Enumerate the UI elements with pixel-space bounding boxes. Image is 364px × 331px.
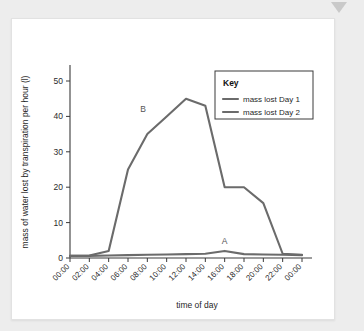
y-tick-label: 20 — [54, 182, 64, 192]
y-tick-label: 10 — [54, 218, 64, 228]
x-tick-label: 02:00 — [70, 262, 91, 283]
legend-label-day-1: mass lost Day 1 — [243, 95, 300, 104]
x-tick-label: 06:00 — [109, 262, 130, 283]
annotation-label-b: B — [140, 104, 146, 114]
y-axis-title: mass of water lost by transpiration per … — [20, 75, 30, 248]
x-tick-label: 04:00 — [90, 262, 111, 283]
chart-svg: 01020304050 00:0002:0004:0006:0008:0010:… — [12, 19, 334, 319]
page-background: 01020304050 00:0002:0004:0006:0008:0010:… — [0, 0, 364, 331]
legend-label-day-2: mass lost Day 2 — [243, 108, 300, 117]
legend-title: Key — [223, 78, 239, 88]
x-tick-label: 10:00 — [148, 262, 169, 283]
annotation-label-a: A — [222, 236, 228, 246]
transpiration-line-chart: 01020304050 00:0002:0004:0006:0008:0010:… — [12, 19, 334, 319]
x-tick-label: 14:00 — [186, 262, 207, 283]
x-tick-label: 22:00 — [264, 262, 285, 283]
x-tick-label: 08:00 — [128, 262, 149, 283]
x-axis-tick-labels: 00:0002:0004:0006:0008:0010:0012:0014:00… — [51, 262, 304, 283]
chart-legend: Key mass lost Day 1 mass lost Day 2 — [215, 71, 313, 119]
y-tick-label: 50 — [54, 76, 64, 86]
y-tick-label: 40 — [54, 111, 64, 121]
x-tick-label: 16:00 — [206, 262, 227, 283]
y-tick-label: 30 — [54, 147, 64, 157]
x-tick-label: 00:00 — [283, 262, 304, 283]
x-tick-label: 00:00 — [51, 262, 72, 283]
x-tick-label: 12:00 — [167, 262, 188, 283]
collapse-triangle-icon — [331, 2, 347, 13]
y-tick-label: 0 — [58, 253, 63, 263]
x-axis-title: time of day — [176, 300, 218, 310]
y-axis-ticks: 01020304050 — [54, 76, 70, 263]
x-tick-label: 20:00 — [244, 262, 265, 283]
chart-card: 01020304050 00:0002:0004:0006:0008:0010:… — [11, 18, 335, 320]
x-tick-label: 18:00 — [225, 262, 246, 283]
series-line-mass-lost-day-2 — [70, 99, 302, 256]
x-axis-ticks — [70, 258, 302, 262]
